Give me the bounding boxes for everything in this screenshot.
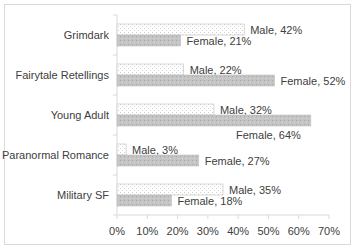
bar-chart: 0%10%20%30%40%50%60%70%GrimdarkMale, 42%… — [0, 0, 356, 250]
data-label-male: Male, 3% — [132, 144, 178, 156]
bar-female — [117, 195, 172, 206]
data-label-female: Female, 64% — [236, 129, 301, 141]
bar-male — [117, 184, 223, 195]
category-label: Military SF — [57, 189, 109, 201]
bar-female — [117, 75, 274, 86]
x-tick-label: 70% — [318, 225, 340, 237]
x-tick-label: 20% — [167, 225, 189, 237]
data-label-male: Male, 22% — [190, 64, 242, 76]
x-tick-label: 60% — [288, 225, 310, 237]
bar-female — [117, 35, 181, 46]
category-label: Paranormal Romance — [2, 149, 109, 161]
x-tick-label: 30% — [197, 225, 219, 237]
data-label-female: Female, 27% — [205, 155, 270, 167]
bar-female — [117, 115, 311, 126]
bar-male — [117, 104, 214, 115]
bar-male — [117, 144, 126, 155]
x-tick-label: 40% — [227, 225, 249, 237]
data-label-female: Female, 52% — [280, 75, 345, 87]
data-label-male: Male, 42% — [250, 24, 302, 36]
bar-male — [117, 64, 184, 75]
category-label: Fairytale Retellings — [15, 69, 109, 81]
x-tick-label: 10% — [136, 225, 158, 237]
x-tick-label: 0% — [109, 225, 125, 237]
category-label: Grimdark — [64, 29, 110, 41]
bar-female — [117, 155, 199, 166]
bar-male — [117, 24, 244, 35]
data-label-male: Male, 32% — [220, 104, 272, 116]
data-label-female: Female, 21% — [187, 35, 252, 47]
x-tick-label: 50% — [257, 225, 279, 237]
category-label: Young Adult — [51, 109, 109, 121]
data-label-female: Female, 18% — [178, 195, 243, 207]
